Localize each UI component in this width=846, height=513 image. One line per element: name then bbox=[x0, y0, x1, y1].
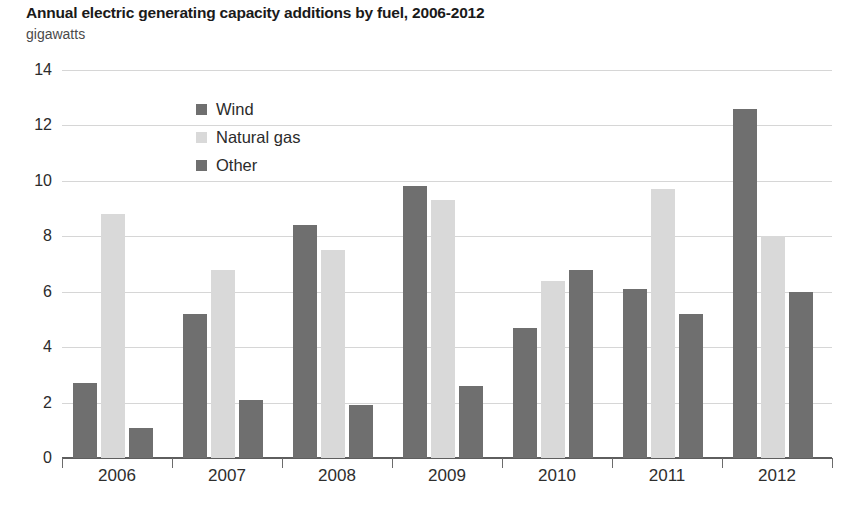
y-tick-label-14: 14 bbox=[34, 61, 52, 79]
chart-page: Annual electric generating capacity addi… bbox=[0, 0, 846, 513]
legend-swatch-icon-wind bbox=[196, 104, 207, 115]
x-tick-label-2007: 2007 bbox=[208, 466, 246, 486]
bar-group-2009 bbox=[392, 70, 502, 458]
y-tick-label-8: 8 bbox=[43, 227, 52, 245]
bar-other-2008 bbox=[349, 405, 373, 458]
bar-wind-2010 bbox=[513, 328, 537, 458]
x-tick-label-2012: 2012 bbox=[758, 466, 796, 486]
x-axis-tickmark-5 bbox=[612, 458, 613, 468]
legend-item-wind: Wind bbox=[196, 100, 300, 119]
bar-natural-gas-2009 bbox=[431, 200, 455, 458]
bar-wind-2012 bbox=[733, 109, 757, 458]
page-title: Annual electric generating capacity addi… bbox=[26, 4, 484, 22]
y-tick-label-0: 0 bbox=[43, 449, 52, 467]
legend-item-other: Other bbox=[196, 156, 300, 175]
legend-label-wind: Wind bbox=[216, 100, 254, 119]
x-axis-tickmark-3 bbox=[392, 458, 393, 468]
x-axis-tickmark-0 bbox=[62, 458, 63, 468]
bar-wind-2009 bbox=[403, 186, 427, 458]
bar-natural-gas-2012 bbox=[761, 236, 785, 458]
bar-group-2006 bbox=[62, 70, 172, 458]
legend-swatch-icon-natural-gas bbox=[196, 132, 207, 143]
x-tick-label-2009: 2009 bbox=[428, 466, 466, 486]
legend-label-natural-gas: Natural gas bbox=[216, 128, 300, 147]
x-axis-tickmark-1 bbox=[172, 458, 173, 468]
y-tick-label-12: 12 bbox=[34, 116, 52, 134]
x-axis-tickmark-2 bbox=[282, 458, 283, 468]
bar-group-2012 bbox=[722, 70, 832, 458]
bar-group-2010 bbox=[502, 70, 612, 458]
x-tick-label-2011: 2011 bbox=[649, 466, 686, 486]
y-axis-unit-label: gigawatts bbox=[26, 26, 85, 42]
x-tick-label-2010: 2010 bbox=[538, 466, 576, 486]
bar-wind-2011 bbox=[623, 289, 647, 458]
x-axis-tick-labels: 2006200720082009201020112012 bbox=[62, 466, 832, 506]
legend-item-natural-gas: Natural gas bbox=[196, 128, 300, 147]
bar-natural-gas-2010 bbox=[541, 281, 565, 458]
legend-label-other: Other bbox=[216, 156, 257, 175]
bar-wind-2007 bbox=[183, 314, 207, 458]
bar-group-2011 bbox=[612, 70, 722, 458]
bar-natural-gas-2011 bbox=[651, 189, 675, 458]
legend-swatch-icon-other bbox=[196, 160, 207, 171]
bar-wind-2006 bbox=[73, 383, 97, 458]
bar-natural-gas-2007 bbox=[211, 270, 235, 458]
x-axis-tickmark-4 bbox=[502, 458, 503, 468]
bar-other-2012 bbox=[789, 292, 813, 458]
y-tick-label-6: 6 bbox=[43, 283, 52, 301]
bar-natural-gas-2006 bbox=[101, 214, 125, 458]
bar-other-2009 bbox=[459, 386, 483, 458]
x-axis-tickmark-6 bbox=[722, 458, 723, 468]
bar-groups bbox=[62, 70, 832, 458]
bar-other-2006 bbox=[129, 428, 153, 458]
bar-wind-2008 bbox=[293, 225, 317, 458]
y-tick-label-4: 4 bbox=[43, 338, 52, 356]
chart-legend: Wind Natural gas Other bbox=[196, 100, 300, 175]
x-tick-label-2006: 2006 bbox=[98, 466, 136, 486]
bar-other-2010 bbox=[569, 270, 593, 458]
y-tick-label-2: 2 bbox=[43, 394, 52, 412]
y-tick-label-10: 10 bbox=[34, 172, 52, 190]
x-tick-label-2008: 2008 bbox=[318, 466, 356, 486]
bar-natural-gas-2008 bbox=[321, 250, 345, 458]
bar-other-2007 bbox=[239, 400, 263, 458]
bar-other-2011 bbox=[679, 314, 703, 458]
y-axis-tick-labels: 02468101214 bbox=[0, 70, 58, 458]
x-axis-tickmark-end bbox=[832, 458, 833, 468]
